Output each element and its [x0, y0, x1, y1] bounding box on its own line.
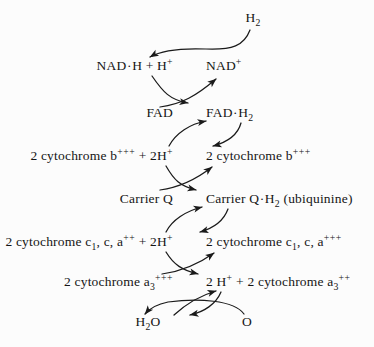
label-cytochrome-b-right: 2 cytochrome b+++	[206, 149, 311, 163]
sub-2: 2	[275, 198, 280, 209]
label-fad-h2: FAD·H2	[206, 106, 253, 120]
respiratory-chain-diagram: H2 NAD·H + H+ NAD+ FAD FAD·H2 2 cytochro…	[0, 0, 374, 347]
sub-2: 2	[255, 17, 260, 28]
label-carrier-q-h2: Carrier Q·H2 (ubiquinine)	[206, 192, 353, 206]
curve-cytc1-left-to-a3	[166, 252, 198, 274]
label-carrier-q: Carrier Q	[120, 192, 173, 206]
label-cytochrome-a3-left: 2 cytochrome a3+++	[64, 275, 173, 289]
sup-plus: +	[167, 56, 173, 67]
sub-1: 1	[292, 241, 297, 252]
curve-cytc1-to-qh2	[166, 207, 202, 232]
label-nadh: NAD·H + H+	[97, 59, 173, 73]
label-fad: FAD	[146, 106, 173, 120]
curve-o-to-a3right	[174, 291, 216, 315]
sup-plus: +	[167, 146, 173, 157]
curve-h2-to-nadh	[150, 30, 250, 57]
label-cytochrome-c1-right: 2 cytochrome c1, c, a+++	[206, 235, 342, 249]
curve-qh2-to-cytc1	[200, 209, 228, 232]
curve-o-to-h2o	[145, 300, 244, 314]
sup-plus-plus-plus: +++	[155, 272, 173, 283]
curve-nadh-to-fad	[152, 76, 188, 103]
arrow-curves-layer	[0, 0, 374, 347]
sup-plus-plus-plus: +++	[293, 146, 311, 157]
sup-plus: +	[167, 232, 173, 243]
label-cytochrome-a3-right: 2 H+ + 2 cytochrome a3++	[206, 275, 350, 289]
curve-cytb-to-fadh2	[169, 121, 206, 146]
label-water: H2O	[136, 315, 161, 329]
sup-plus-plus-plus: +++	[324, 232, 342, 243]
label-nad-plus: NAD+	[206, 59, 242, 73]
sub-1: 1	[91, 241, 96, 252]
sup-plus-plus-plus: +++	[117, 146, 135, 157]
sup-plus: +	[226, 272, 232, 283]
label-oxygen: O	[242, 315, 252, 329]
sub-2: 2	[248, 112, 253, 123]
curve-fadh2-to-cytb	[213, 123, 241, 146]
curve-cytb-left-to-q	[166, 166, 196, 190]
sup-plus-plus: ++	[339, 272, 351, 283]
sup-plus: +	[236, 56, 242, 67]
curve-a3right-to-h2o	[190, 292, 221, 315]
label-h2: H2	[245, 11, 260, 25]
sub-2: 2	[145, 321, 150, 332]
sup-plus-plus: ++	[123, 232, 135, 243]
curve-fad-to-nad	[160, 79, 216, 107]
curve-q-to-cytb-right	[160, 167, 212, 190]
label-cytochrome-c1-left: 2 cytochrome c1, c, a++ + 2H+	[5, 235, 173, 249]
label-cytochrome-b-left: 2 cytochrome b+++ + 2H+	[30, 149, 173, 163]
